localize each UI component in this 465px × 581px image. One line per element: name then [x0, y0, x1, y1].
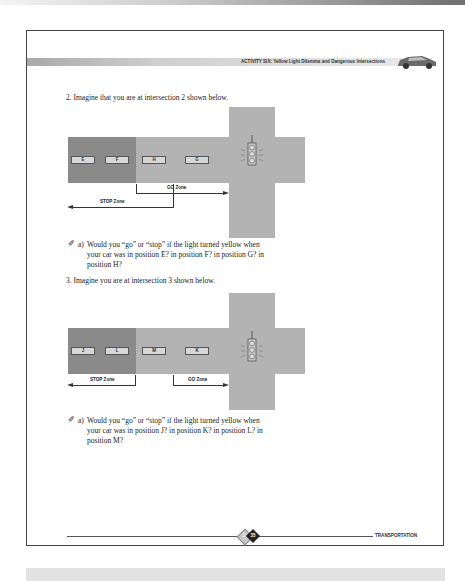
car-F: F [105, 156, 129, 164]
traffic-light-icon [239, 331, 265, 365]
question-3a-line3: position M? [87, 436, 123, 446]
question-2a-line3: position H? [87, 260, 122, 270]
question-3a-line2: your car was in position J? in position … [87, 426, 263, 436]
car-G: G [185, 156, 209, 164]
car-icon [394, 51, 439, 71]
vertical-road [229, 107, 275, 238]
car-K: K [185, 347, 209, 355]
footer-line-right [261, 536, 373, 537]
page: ACTIVITY SIX: Yellow Light Dilemma and D… [26, 30, 444, 546]
pencil-icon: ✐ [68, 239, 75, 248]
page-number: 35 [248, 531, 258, 541]
question-3-prompt: 3. Imagine you are at intersection 3 sho… [66, 276, 215, 286]
stop-zone-arrow [71, 385, 136, 386]
stop-zone-label: STOP Zone [90, 377, 115, 382]
question-3a-label: a) [78, 416, 84, 426]
footer-line-left [67, 536, 263, 537]
question-2a-line2: your car was in position E? in position … [87, 250, 264, 260]
go-zone-arrowhead [223, 191, 229, 195]
car-L: L [105, 347, 129, 355]
go-zone-arrowhead [223, 383, 229, 387]
activity-title: ACTIVITY SIX: Yellow Light Dilemma and D… [27, 57, 385, 67]
question-3a-line1: Would you “go” or “stop” if the light tu… [87, 416, 260, 426]
footer-section: TRANSPORTATION [375, 533, 417, 538]
pencil-icon: ✐ [68, 415, 75, 424]
go-zone-arrow [136, 193, 224, 194]
question-2a-label: a) [78, 240, 84, 250]
question-2a-line1: Would you “go” or “stop” if the light tu… [87, 240, 260, 250]
stop-zone-arrowhead [67, 383, 73, 387]
question-2-prompt: 2. Imagine that you are at intersection … [66, 93, 228, 103]
stop-zone-arrowhead [67, 205, 73, 209]
top-gradient-bar [0, 0, 465, 5]
go-zone-bracket [173, 375, 174, 385]
stop-zone-bracket [173, 184, 174, 208]
go-zone-label: GO Zone [188, 377, 207, 382]
car-J: J [71, 347, 95, 355]
intersection-3-diagram: J L M K STOP Zone GO Zone [68, 293, 308, 413]
go-zone-arrow [173, 385, 224, 386]
intersection-2-diagram: E F H G GO Zone STOP Zone [68, 107, 308, 239]
car-M: M [142, 347, 166, 355]
stop-zone-label: STOP Zone [100, 199, 125, 204]
stop-zone-arrow [71, 207, 174, 208]
car-E: E [71, 156, 95, 164]
stop-zone-bracket [135, 375, 136, 385]
go-zone-label: GO Zone [167, 185, 186, 190]
bottom-band [26, 568, 445, 581]
traffic-light-icon [239, 135, 265, 169]
car-H: H [142, 156, 166, 164]
